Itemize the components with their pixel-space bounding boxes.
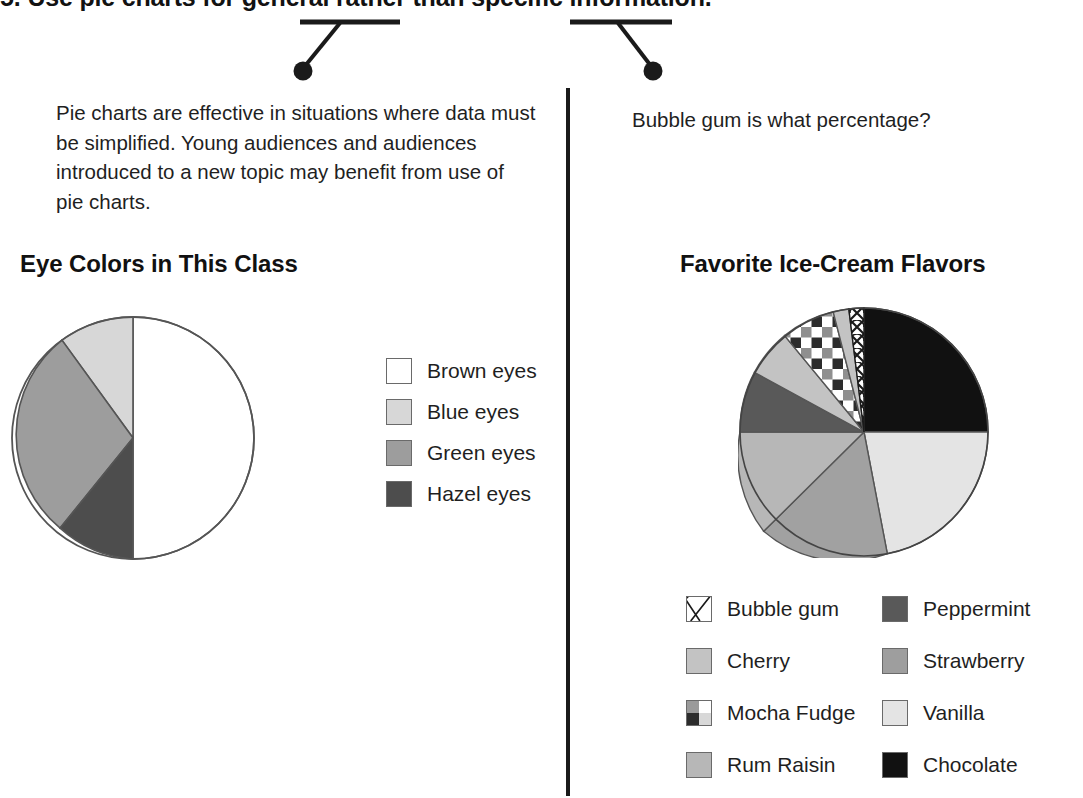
pie-slice-brown-eyes <box>133 317 254 559</box>
legend-swatch-blue-eyes <box>386 399 412 425</box>
eye-colors-pie-chart <box>10 315 256 561</box>
legend-swatch-vanilla <box>882 700 908 726</box>
legend-item[interactable]: Chocolate <box>882 752 1078 778</box>
pie-slice-chocolate <box>864 308 988 432</box>
eye-colors-heading: Eye Colors in This Class <box>20 250 298 278</box>
eye-colors-legend: Brown eyes Blue eyes Green eyes Hazel ey… <box>386 358 537 522</box>
legend-label: Strawberry <box>923 648 1025 674</box>
eye-colors-pie-svg <box>10 315 256 561</box>
legend-item[interactable]: Blue eyes <box>386 399 537 425</box>
legend-item[interactable]: Green eyes <box>386 440 537 466</box>
legend-swatch-hazel-eyes <box>386 481 412 507</box>
legend-label: Brown eyes <box>427 358 537 384</box>
page-headline: 5.Use pie charts for general rather than… <box>0 0 1083 12</box>
legend-swatch-strawberry <box>882 648 908 674</box>
headline-text: Use pie charts for general rather than s… <box>27 0 711 11</box>
legend-swatch-cherry <box>686 648 712 674</box>
legend-item[interactable]: Brown eyes <box>386 358 537 384</box>
legend-label: Blue eyes <box>427 399 519 425</box>
legend-item[interactable]: Strawberry <box>882 648 1078 674</box>
column-divider <box>566 88 570 796</box>
right-body-paragraph: Bubble gum is what percentage? <box>632 105 1052 135</box>
legend-label: Hazel eyes <box>427 481 531 507</box>
legend-label: Mocha Fudge <box>727 700 855 726</box>
legend-item[interactable]: Bubble gum <box>686 596 882 622</box>
legend-label: Rum Raisin <box>727 752 836 778</box>
legend-swatch-bubble-gum <box>686 596 712 622</box>
headline-number: 5. <box>0 0 20 11</box>
left-body-paragraph: Pie charts are effective in situations w… <box>56 98 536 216</box>
legend-label: Cherry <box>727 648 790 674</box>
legend-label: Vanilla <box>923 700 984 726</box>
legend-swatch-green-eyes <box>386 440 412 466</box>
legend-label: Peppermint <box>923 596 1030 622</box>
left-callout <box>296 18 416 84</box>
ice-cream-pie-svg <box>738 306 990 558</box>
legend-item[interactable]: Mocha Fudge <box>686 700 882 726</box>
legend-swatch-chocolate <box>882 752 908 778</box>
right-callout <box>568 18 688 84</box>
legend-item[interactable]: Peppermint <box>882 596 1078 622</box>
legend-item[interactable]: Hazel eyes <box>386 481 537 507</box>
right-callout-graphic <box>568 18 688 84</box>
left-callout-graphic <box>296 18 416 84</box>
legend-swatch-peppermint <box>882 596 908 622</box>
legend-item[interactable]: Rum Raisin <box>686 752 882 778</box>
ice-cream-pie-chart <box>738 306 990 558</box>
legend-swatch-mocha-fudge <box>686 700 712 726</box>
legend-label: Green eyes <box>427 440 536 466</box>
legend-item[interactable]: Vanilla <box>882 700 1078 726</box>
legend-label: Chocolate <box>923 752 1018 778</box>
legend-swatch-rum-raisin <box>686 752 712 778</box>
ice-cream-legend: Bubble gum Peppermint Cherry Strawberry … <box>686 583 1076 791</box>
legend-item[interactable]: Cherry <box>686 648 882 674</box>
legend-label: Bubble gum <box>727 596 839 622</box>
legend-swatch-brown-eyes <box>386 358 412 384</box>
ice-cream-heading: Favorite Ice-Cream Flavors <box>680 250 986 278</box>
